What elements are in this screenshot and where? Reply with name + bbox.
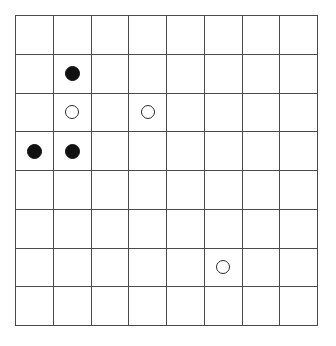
cell-0-3-empty[interactable] xyxy=(129,16,167,55)
cell-0-0-empty[interactable] xyxy=(16,16,54,55)
cell-0-1-empty[interactable] xyxy=(54,16,92,55)
cell-7-7-empty[interactable] xyxy=(280,287,318,326)
cell-7-3-empty[interactable] xyxy=(129,287,167,326)
cell-6-5-white-stone[interactable] xyxy=(205,249,243,288)
cell-2-2-empty[interactable] xyxy=(92,94,130,133)
cell-6-4-empty[interactable] xyxy=(167,249,205,288)
cell-7-0-empty[interactable] xyxy=(16,287,54,326)
cell-3-1-black-stone[interactable] xyxy=(54,132,92,171)
cell-2-7-empty[interactable] xyxy=(280,94,318,133)
grid-board[interactable] xyxy=(15,15,318,326)
cell-3-5-empty[interactable] xyxy=(205,132,243,171)
cell-7-4-empty[interactable] xyxy=(167,287,205,326)
cell-5-2-empty[interactable] xyxy=(92,210,130,249)
cell-4-4-empty[interactable] xyxy=(167,171,205,210)
cell-1-1-black-stone[interactable] xyxy=(54,55,92,94)
black-stone-icon xyxy=(65,144,80,159)
cell-4-2-empty[interactable] xyxy=(92,171,130,210)
cell-0-6-empty[interactable] xyxy=(243,16,281,55)
cell-0-7-empty[interactable] xyxy=(280,16,318,55)
cell-7-5-empty[interactable] xyxy=(205,287,243,326)
cell-5-4-empty[interactable] xyxy=(167,210,205,249)
cell-0-4-empty[interactable] xyxy=(167,16,205,55)
white-stone-icon xyxy=(65,105,79,119)
cell-5-1-empty[interactable] xyxy=(54,210,92,249)
cell-4-6-empty[interactable] xyxy=(243,171,281,210)
cell-6-1-empty[interactable] xyxy=(54,249,92,288)
cell-2-4-empty[interactable] xyxy=(167,94,205,133)
cell-2-1-white-stone[interactable] xyxy=(54,94,92,133)
cell-5-7-empty[interactable] xyxy=(280,210,318,249)
white-stone-icon xyxy=(216,260,230,274)
cell-1-3-empty[interactable] xyxy=(129,55,167,94)
cell-5-5-empty[interactable] xyxy=(205,210,243,249)
cell-5-3-empty[interactable] xyxy=(129,210,167,249)
cell-1-4-empty[interactable] xyxy=(167,55,205,94)
cell-5-6-empty[interactable] xyxy=(243,210,281,249)
cell-2-0-empty[interactable] xyxy=(16,94,54,133)
cell-1-5-empty[interactable] xyxy=(205,55,243,94)
cell-0-2-empty[interactable] xyxy=(92,16,130,55)
white-stone-icon xyxy=(141,105,155,119)
cell-0-5-empty[interactable] xyxy=(205,16,243,55)
cell-2-3-white-stone[interactable] xyxy=(129,94,167,133)
cell-3-3-empty[interactable] xyxy=(129,132,167,171)
cell-6-3-empty[interactable] xyxy=(129,249,167,288)
cell-6-0-empty[interactable] xyxy=(16,249,54,288)
cell-6-7-empty[interactable] xyxy=(280,249,318,288)
board-container xyxy=(0,0,336,346)
cell-7-1-empty[interactable] xyxy=(54,287,92,326)
cell-4-0-empty[interactable] xyxy=(16,171,54,210)
cell-2-5-empty[interactable] xyxy=(205,94,243,133)
cell-7-6-empty[interactable] xyxy=(243,287,281,326)
cell-5-0-empty[interactable] xyxy=(16,210,54,249)
cell-2-6-empty[interactable] xyxy=(243,94,281,133)
black-stone-icon xyxy=(65,66,80,81)
cell-3-6-empty[interactable] xyxy=(243,132,281,171)
cell-4-7-empty[interactable] xyxy=(280,171,318,210)
cell-3-7-empty[interactable] xyxy=(280,132,318,171)
cell-6-6-empty[interactable] xyxy=(243,249,281,288)
cell-1-0-empty[interactable] xyxy=(16,55,54,94)
cell-4-1-empty[interactable] xyxy=(54,171,92,210)
cell-6-2-empty[interactable] xyxy=(92,249,130,288)
cell-1-2-empty[interactable] xyxy=(92,55,130,94)
cell-1-7-empty[interactable] xyxy=(280,55,318,94)
black-stone-icon xyxy=(27,144,42,159)
cell-7-2-empty[interactable] xyxy=(92,287,130,326)
cell-1-6-empty[interactable] xyxy=(243,55,281,94)
cell-3-2-empty[interactable] xyxy=(92,132,130,171)
cell-3-4-empty[interactable] xyxy=(167,132,205,171)
cell-3-0-black-stone[interactable] xyxy=(16,132,54,171)
cell-4-5-empty[interactable] xyxy=(205,171,243,210)
cell-4-3-empty[interactable] xyxy=(129,171,167,210)
